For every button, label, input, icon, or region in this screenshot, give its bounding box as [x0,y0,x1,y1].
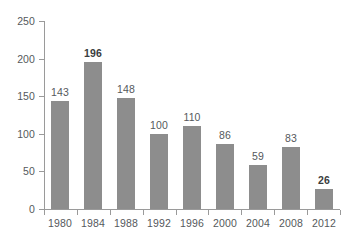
x-axis-tick [208,210,209,215]
x-axis-tick [143,210,144,215]
y-axis-tick-label: 0 [5,204,35,214]
y-axis-tick [39,21,44,22]
bar-chart: 050100150200250 14319614810011086598326 … [0,0,348,242]
x-axis-category-label: 2012 [302,218,346,229]
bar-value-label: 196 [73,48,113,59]
bar-value-label: 110 [172,112,212,123]
x-axis-tick [340,210,341,215]
x-axis-tick [44,210,45,215]
bar [51,101,69,209]
y-axis-tick-label: 100 [5,129,35,139]
x-axis-tick [110,210,111,215]
bar [84,62,102,209]
y-axis-tick-label: 250 [5,16,35,26]
bar-value-label: 143 [40,87,80,98]
bar-value-label: 59 [238,151,278,162]
y-axis-line [44,21,45,210]
x-axis-tick [307,210,308,215]
bar [216,144,234,209]
bar-value-label: 148 [106,84,146,95]
bar-value-label: 26 [304,175,344,186]
y-axis-tick [39,59,44,60]
y-axis-tick-label: 200 [5,54,35,64]
x-axis-tick [77,210,78,215]
y-axis-tick-label: 50 [5,166,35,176]
bar-value-label: 86 [205,130,245,141]
x-axis-line [44,209,340,210]
bar [315,189,333,209]
bar [150,134,168,209]
bar [117,98,135,209]
bar [183,126,201,209]
x-axis-tick [274,210,275,215]
y-axis-tick-label: 150 [5,91,35,101]
x-axis-tick [241,210,242,215]
bar [282,147,300,209]
y-axis-tick [39,134,44,135]
bar [249,165,267,209]
x-axis-tick [176,210,177,215]
y-axis-tick [39,171,44,172]
bar-value-label: 83 [271,133,311,144]
